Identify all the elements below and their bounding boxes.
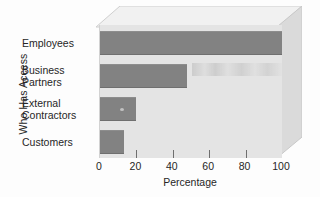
x-tick-20 bbox=[136, 150, 137, 158]
x-tick-label-100: 100 bbox=[272, 160, 290, 172]
x-tick-60 bbox=[209, 150, 210, 158]
category-label-line: External bbox=[22, 97, 61, 109]
x-tick-label-60: 60 bbox=[202, 160, 214, 172]
x-tick-80 bbox=[246, 150, 247, 158]
x-tick-label-0: 0 bbox=[96, 160, 102, 172]
x-tick-label-20: 20 bbox=[130, 160, 142, 172]
category-label-external-contractors: ExternalContractors bbox=[22, 97, 94, 121]
x-axis-title: Percentage bbox=[96, 176, 284, 188]
bar-employees bbox=[100, 31, 282, 55]
category-label-line: Partners bbox=[22, 76, 94, 88]
category-label-line: Business bbox=[22, 64, 65, 76]
bar-business-partners bbox=[100, 64, 187, 88]
category-label-business-partners: BusinessPartners bbox=[22, 64, 94, 88]
category-label-line: Contractors bbox=[22, 109, 94, 121]
x-tick-label-80: 80 bbox=[239, 160, 251, 172]
plot-area bbox=[99, 25, 282, 158]
category-axis-labels: EmployeesBusinessPartnersExternalContrac… bbox=[22, 27, 94, 151]
category-label-employees: Employees bbox=[22, 37, 94, 49]
category-label-customers: Customers bbox=[22, 136, 94, 148]
category-label-line: Customers bbox=[22, 136, 73, 148]
category-label-line: Employees bbox=[22, 37, 74, 49]
plot-3d-box bbox=[96, 6, 302, 158]
bar-external-contractors bbox=[100, 97, 136, 121]
bar-chart-figure: Who Has Access EmployeesBusinessPartners… bbox=[0, 0, 320, 197]
x-tick-label-40: 40 bbox=[166, 160, 178, 172]
bar-customers bbox=[100, 130, 124, 154]
x-tick-40 bbox=[173, 150, 174, 158]
